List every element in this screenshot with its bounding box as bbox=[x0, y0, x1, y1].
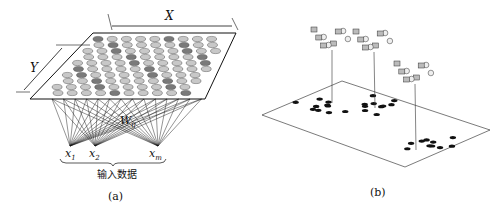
som-node bbox=[166, 84, 176, 89]
data-point bbox=[325, 100, 331, 103]
som-node bbox=[140, 54, 150, 59]
som-node bbox=[168, 48, 178, 53]
som-node bbox=[124, 90, 134, 95]
som-node bbox=[122, 42, 132, 47]
som-node bbox=[172, 60, 182, 65]
data-point bbox=[316, 97, 322, 100]
som-node bbox=[108, 42, 118, 47]
diagram-canvas: X Y Wij x1 x2 xm 输入数据 (a) (b) bbox=[0, 0, 502, 210]
som-node bbox=[183, 54, 193, 59]
input-data-label: 输入数据 bbox=[97, 168, 137, 180]
som-node bbox=[107, 36, 117, 41]
som-node bbox=[159, 66, 169, 71]
som-node bbox=[201, 66, 211, 71]
som-node bbox=[81, 90, 91, 95]
som-node bbox=[163, 78, 173, 83]
som-node bbox=[151, 42, 161, 47]
x-tick-right bbox=[232, 18, 238, 30]
som-node bbox=[88, 66, 98, 71]
som-node bbox=[207, 42, 217, 47]
som-node bbox=[109, 84, 119, 89]
weight-line bbox=[52, 99, 70, 146]
data-point bbox=[370, 94, 376, 97]
som-node bbox=[111, 48, 121, 53]
som-node bbox=[63, 78, 73, 83]
som-node bbox=[77, 72, 87, 77]
som-node bbox=[53, 90, 63, 95]
input-xm: xm bbox=[149, 147, 162, 162]
som-node bbox=[101, 60, 111, 65]
weight-label: Wij bbox=[120, 114, 137, 129]
som-node bbox=[92, 78, 102, 83]
som-node bbox=[193, 42, 203, 47]
data-point bbox=[342, 110, 348, 113]
cube-object bbox=[404, 77, 410, 82]
som-node bbox=[152, 84, 162, 89]
som-node bbox=[115, 60, 125, 65]
weight-line bbox=[158, 99, 202, 146]
som-node bbox=[187, 66, 197, 71]
som-node bbox=[125, 48, 135, 53]
cube-object bbox=[335, 29, 341, 34]
som-node bbox=[196, 48, 206, 53]
som-node bbox=[155, 54, 165, 59]
cube-object bbox=[316, 35, 322, 40]
som-node bbox=[180, 84, 190, 89]
som-node bbox=[110, 90, 120, 95]
som-node bbox=[176, 72, 186, 77]
cube-object bbox=[399, 69, 405, 74]
som-node bbox=[165, 42, 175, 47]
som-node bbox=[138, 90, 148, 95]
som-node bbox=[181, 90, 191, 95]
som-node bbox=[182, 48, 192, 53]
input-x1: x1 bbox=[65, 147, 76, 162]
som-node bbox=[190, 72, 200, 77]
som-node bbox=[96, 90, 106, 95]
data-point bbox=[388, 103, 394, 106]
som-node bbox=[93, 36, 103, 41]
som-node bbox=[102, 66, 112, 71]
data-point bbox=[430, 140, 436, 143]
som-node bbox=[207, 36, 217, 41]
som-node bbox=[136, 42, 146, 47]
data-point bbox=[371, 102, 377, 105]
som-node bbox=[211, 48, 221, 53]
som-node bbox=[87, 60, 97, 65]
som-node bbox=[178, 36, 188, 41]
som-node bbox=[120, 78, 130, 83]
data-point bbox=[313, 105, 319, 108]
cube-object bbox=[358, 37, 364, 42]
cube-object bbox=[353, 29, 359, 34]
data-point bbox=[324, 104, 330, 107]
som-node bbox=[158, 60, 168, 65]
cube-object bbox=[311, 27, 317, 32]
data-point bbox=[362, 109, 368, 112]
som-node bbox=[112, 54, 122, 59]
sphere-object bbox=[387, 38, 393, 44]
data-point bbox=[429, 144, 435, 147]
x-dimension-label: X bbox=[164, 9, 174, 23]
weight-line bbox=[64, 99, 71, 146]
som-node bbox=[130, 66, 140, 71]
som-node bbox=[119, 72, 129, 77]
x-tick-left bbox=[108, 14, 112, 30]
cube-object bbox=[321, 43, 327, 48]
input-brace bbox=[60, 159, 166, 166]
som-node bbox=[94, 42, 104, 47]
som-node bbox=[62, 72, 72, 77]
som-node bbox=[116, 66, 126, 71]
som-node bbox=[134, 78, 144, 83]
som-node bbox=[105, 72, 115, 77]
sphere-object bbox=[345, 36, 351, 42]
data-point bbox=[326, 111, 332, 114]
data-point bbox=[437, 146, 443, 149]
som-node bbox=[144, 60, 154, 65]
som-node bbox=[152, 90, 162, 95]
panel-b-clusters: (b) bbox=[262, 27, 490, 199]
som-node bbox=[167, 90, 177, 95]
data-point bbox=[391, 99, 397, 102]
som-node bbox=[192, 36, 202, 41]
som-node bbox=[162, 72, 172, 77]
data-point bbox=[404, 147, 410, 150]
som-node bbox=[177, 78, 187, 83]
